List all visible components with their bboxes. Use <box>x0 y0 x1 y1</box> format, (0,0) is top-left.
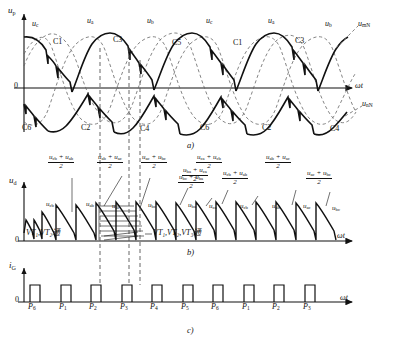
panel-c-y-axis-label: iG <box>9 261 16 271</box>
conduction-label-right: VT₁,VT₂,VT₃通 <box>153 229 201 237</box>
wave-label-a-5: ub <box>325 20 332 29</box>
pulse-label-3: P3 <box>120 303 128 312</box>
figure-root: up ωt 0 uc ua ub uc ua ub C1 C3 C5 C1 C3… <box>0 0 397 346</box>
pulse-label-6: P6 <box>211 303 219 312</box>
panel-a-lower-envelope <box>24 94 347 135</box>
segment-label-3: ubc <box>148 202 156 210</box>
panel-a-x-axis-label: ωt <box>355 82 363 90</box>
wave-label-a-3: uc <box>206 17 212 26</box>
crossing-label-c2-b: C2 <box>262 124 271 132</box>
crossing-label-c3-a: C3 <box>113 36 122 44</box>
panel-a-dashed-sines <box>24 33 356 125</box>
fraction-1: uab + uac 2 <box>97 154 123 171</box>
pulse-label-9: P3 <box>303 303 311 312</box>
pulse-label-4: P4 <box>150 303 158 312</box>
pulse-label-7: P1 <box>242 303 250 312</box>
segment-label-6: ucb <box>240 203 248 211</box>
pulse-label-0: P6 <box>28 303 36 312</box>
label-u-nN: unN <box>362 100 373 109</box>
label-u-mN: umN <box>358 20 370 29</box>
crossing-label-c1-a: C1 <box>53 38 62 46</box>
panel-b-hatched-region <box>99 202 144 240</box>
panel-c-zero-label: 0 <box>15 296 19 304</box>
segment-label-5: uca <box>209 203 217 211</box>
panel-a-y-axis-label: up <box>8 6 16 16</box>
pulse-label-8: P2 <box>272 303 280 312</box>
panel-b-zero-label: 0 <box>15 236 19 244</box>
panel-a-zero-label: 0 <box>14 82 18 90</box>
fraction-6: ucb + uab 2 <box>222 170 248 187</box>
panel-c-gate-pulses <box>30 285 315 302</box>
panel-b-y-axis-label: ud <box>9 176 17 186</box>
section-label-b: b) <box>187 247 194 257</box>
pulse-label-5: P5 <box>181 303 189 312</box>
segment-label-0: ucb <box>46 201 54 209</box>
crossing-label-c6-b: C6 <box>200 124 209 132</box>
crossing-label-c6-a: C6 <box>22 124 31 132</box>
fraction-8: uac + ubc 2 <box>306 170 332 187</box>
pulse-label-2: P2 <box>89 303 97 312</box>
segment-label-1: uab <box>86 201 94 209</box>
crossing-label-c1-b: C1 <box>233 39 242 47</box>
crossing-label-c5-a: C5 <box>172 39 181 47</box>
crossing-label-c4-a: C4 <box>140 125 149 133</box>
section-label-a: a) <box>187 140 194 150</box>
wave-label-a-4: ua <box>268 17 274 26</box>
fraction-7: uab + uac 2 <box>265 154 291 171</box>
segment-label-2: uac <box>112 203 120 211</box>
crossing-label-c4-b: C4 <box>330 125 339 133</box>
crossing-label-c2-a: C2 <box>81 124 90 132</box>
wave-label-a-1: ua <box>87 17 93 26</box>
wave-label-a-0: uc <box>32 20 38 29</box>
pulse-label-1: P1 <box>59 303 67 312</box>
crossing-label-c3-b: C3 <box>295 37 304 45</box>
panel-b-x-axis-label: ωt <box>337 232 345 240</box>
wave-label-a-2: ub <box>147 17 154 26</box>
fraction-0: ucb + uab 2 <box>48 154 74 171</box>
conduction-label-left: VT₁,VT₂通 <box>26 229 60 237</box>
segment-label-8: uac <box>303 203 311 211</box>
fraction-2: uac + ubc 2 <box>141 154 167 171</box>
fraction-5: uca + ucb 2 <box>196 154 222 171</box>
panel-c-x-axis-label: ωt <box>340 294 348 302</box>
segment-label-4: uba <box>188 202 196 210</box>
segment-label-9: ubc <box>332 205 340 213</box>
segment-label-7: uab <box>272 203 280 211</box>
section-label-c: c) <box>187 325 194 335</box>
